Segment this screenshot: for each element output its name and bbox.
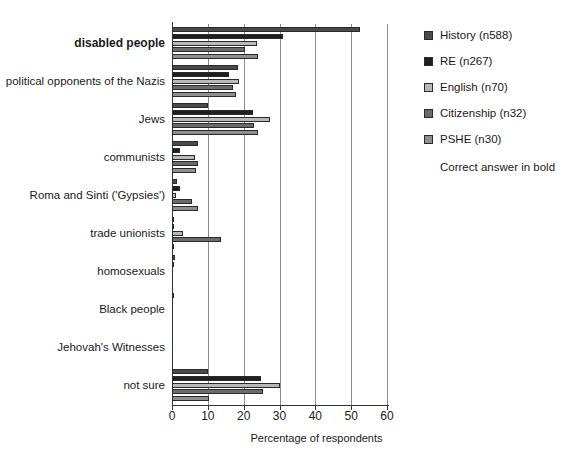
legend-item[interactable]: PSHE (n30) (424, 126, 574, 152)
bar (172, 293, 174, 298)
legend-label: History (n588) (440, 29, 512, 41)
bar-group: disabled people (172, 24, 387, 62)
x-tick-label-10: 10 (201, 409, 214, 423)
bar (172, 224, 174, 229)
bar-group: political opponents of the Nazis (172, 62, 387, 100)
legend-swatch-icon (424, 57, 433, 66)
bar (172, 148, 180, 153)
x-axis-line (172, 405, 389, 406)
legend-label: English (n70) (440, 81, 508, 93)
legend-label: RE (n267) (440, 55, 492, 67)
x-axis-title: Percentage of respondents (0, 432, 575, 444)
bar (172, 389, 263, 394)
bar (172, 199, 192, 204)
bar (172, 27, 360, 32)
x-tick-label-40: 40 (309, 409, 322, 423)
category-label: communists (104, 151, 165, 163)
legend-item[interactable]: English (n70) (424, 74, 574, 100)
bar (172, 396, 209, 401)
bar (172, 193, 176, 198)
bar-group: not sure (172, 366, 387, 404)
bar-group: communists (172, 138, 387, 176)
bar-group: Jehovah's Witnesses (172, 328, 387, 366)
bar (172, 123, 254, 128)
bar (172, 65, 238, 70)
bar (172, 161, 198, 166)
bar (172, 206, 198, 211)
legend-swatch-icon (424, 135, 433, 144)
bar (172, 255, 175, 260)
bar (172, 79, 239, 84)
bar (172, 47, 245, 52)
category-label: political opponents of the Nazis (6, 75, 165, 87)
legend-swatch-icon (424, 109, 433, 118)
legend-swatch-icon (424, 31, 433, 40)
bar (172, 168, 196, 173)
bar (172, 117, 270, 122)
x-tick-label-30: 30 (273, 409, 286, 423)
legend-swatch-icon (424, 83, 433, 92)
category-label: trade unionists (90, 227, 165, 239)
x-tick-label-20: 20 (237, 409, 250, 423)
plot-area: disabled peoplepolitical opponents of th… (172, 24, 387, 404)
legend-divider (420, 22, 421, 182)
bar-group: homosexuals (172, 252, 387, 290)
bar (172, 110, 253, 115)
category-label: Black people (99, 303, 165, 315)
bar-group: trade unionists (172, 214, 387, 252)
bar (172, 186, 180, 191)
bar (172, 217, 174, 222)
gridline-60 (387, 24, 388, 405)
bar (172, 155, 195, 160)
bar (172, 72, 229, 77)
legend: History (n588)RE (n267)English (n70)Citi… (424, 22, 574, 173)
bar (172, 231, 183, 236)
bar-group: Jews (172, 100, 387, 138)
bar (172, 54, 258, 59)
category-label: disabled people (74, 36, 165, 50)
bar (172, 103, 208, 108)
bar (172, 141, 198, 146)
x-tick-label-50: 50 (344, 409, 357, 423)
bar (172, 179, 177, 184)
bar (172, 85, 233, 90)
legend-note: Correct answer in bold (440, 161, 574, 173)
bar-group: Roma and Sinti ('Gypsies') (172, 176, 387, 214)
bar (172, 383, 280, 388)
bar (172, 92, 236, 97)
legend-label: PSHE (n30) (440, 133, 501, 145)
bar (172, 262, 174, 267)
bar (172, 130, 258, 135)
bar-group: Black people (172, 290, 387, 328)
legend-item[interactable]: History (n588) (424, 22, 574, 48)
bar (172, 41, 257, 46)
category-label: Jews (139, 113, 165, 125)
legend-item[interactable]: RE (n267) (424, 48, 574, 74)
category-label: homosexuals (97, 265, 165, 277)
legend-item[interactable]: Citizenship (n32) (424, 100, 574, 126)
x-tick-label-60: 60 (380, 409, 393, 423)
category-label: Jehovah's Witnesses (57, 341, 165, 353)
bar (172, 376, 261, 381)
x-tick-label-0: 0 (169, 409, 176, 423)
legend-label: Citizenship (n32) (440, 107, 526, 119)
bar-chart: 0102030405060 disabled peoplepolitical o… (0, 0, 575, 463)
category-label: not sure (123, 379, 165, 391)
category-label: Roma and Sinti ('Gypsies') (30, 189, 165, 201)
bar (172, 237, 221, 242)
bar (172, 244, 174, 249)
bar (172, 369, 208, 374)
bar (172, 34, 283, 39)
